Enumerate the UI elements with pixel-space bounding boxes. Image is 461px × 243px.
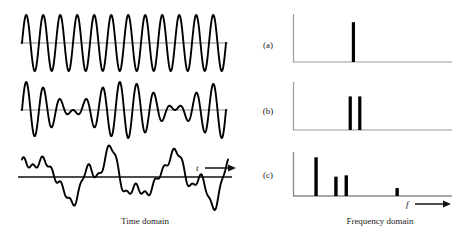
signal-time-frequency-figure: t xyxy=(0,0,461,243)
spectrum-line xyxy=(395,188,398,196)
spectrum-b-lines xyxy=(349,96,362,130)
panel-label-b: (b) xyxy=(248,106,288,116)
spectrum-line xyxy=(334,177,337,196)
frequency-axis-arrow: f xyxy=(406,199,451,209)
time-axis-arrow: t xyxy=(196,163,236,173)
waveform-c-curve xyxy=(22,146,228,210)
spectrum-line xyxy=(345,175,348,196)
frequency-domain-caption: Frequency domain xyxy=(300,216,460,226)
spectrum-line xyxy=(349,96,352,130)
panel-label-a: (a) xyxy=(248,40,288,50)
spectrum-line xyxy=(358,96,361,130)
panel-label-c: (c) xyxy=(248,170,288,180)
spectrum-a-panel xyxy=(293,14,452,62)
frequency-axis-letter: f xyxy=(406,199,410,209)
spectrum-a-lines xyxy=(352,22,355,62)
time-domain-caption: Time domain xyxy=(55,216,235,226)
waveform-a-panel xyxy=(20,15,228,71)
time-axis-letter: t xyxy=(196,163,199,173)
waveform-b-panel xyxy=(20,82,228,138)
spectrum-c-lines xyxy=(314,157,398,196)
waveform-c-panel: t xyxy=(18,146,236,210)
spectrum-c-panel: f xyxy=(293,152,452,209)
spectrum-line xyxy=(352,22,355,62)
spectrum-line xyxy=(314,157,317,196)
frequency-arrow-head xyxy=(443,200,451,207)
time-domain-group: t xyxy=(18,15,236,210)
spectrum-b-panel xyxy=(293,82,452,130)
time-arrow-head xyxy=(228,164,236,171)
figure-canvas: t xyxy=(0,0,461,243)
frequency-domain-group: f xyxy=(293,14,452,209)
